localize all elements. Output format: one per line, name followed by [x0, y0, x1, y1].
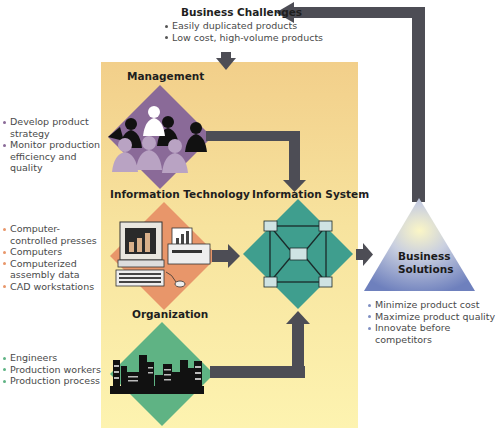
- it-diamond: [110, 202, 218, 310]
- it-item: Computers: [2, 246, 106, 258]
- organization-list: Engineers Production workers Production …: [2, 352, 106, 387]
- it-item: CAD workstations: [2, 281, 106, 293]
- management-diamond: [108, 85, 212, 189]
- organization-item: Production workers: [2, 364, 106, 376]
- solution-item: Innovate before competitors: [367, 322, 496, 345]
- management-to-is-arrow: [206, 131, 306, 192]
- challenge-item: Low cost, high-volume products: [164, 32, 323, 44]
- business-solutions-list: Minimize product cost Maximize product q…: [367, 299, 496, 345]
- information-system-title: Information System: [252, 188, 369, 200]
- it-item: Computer-controlled presses: [2, 223, 106, 246]
- management-list: Develop product strategy Monitor product…: [2, 116, 102, 174]
- it-to-is-arrow: [212, 244, 240, 268]
- business-challenges-title: Business Challenges: [181, 6, 302, 18]
- it-item: Computerized assembly data: [2, 258, 106, 281]
- organization-diamond: [110, 322, 214, 426]
- challenge-item: Easily duplicated products: [164, 20, 323, 32]
- business-solutions-title-line2: Solutions: [398, 263, 442, 276]
- organization-title: Organization: [132, 308, 208, 320]
- information-technology-list: Computer-controlled presses Computers Co…: [2, 223, 106, 292]
- management-title: Management: [127, 70, 204, 82]
- organization-item: Production process: [2, 375, 106, 387]
- challenges-down-arrow: [216, 52, 236, 70]
- business-solutions-triangle: [364, 198, 475, 291]
- information-system-diamond: [243, 199, 353, 309]
- solution-item: Minimize product cost: [367, 299, 496, 311]
- organization-item: Engineers: [2, 352, 106, 364]
- management-item: Develop product strategy: [2, 116, 102, 139]
- management-item: Monitor production efficiency and qualit…: [2, 139, 102, 174]
- information-technology-title: Information Technology: [110, 188, 250, 200]
- business-solutions-title-line1: Business: [398, 250, 442, 263]
- solution-item: Maximize product quality: [367, 311, 496, 323]
- business-challenges-list: Easily duplicated products Low cost, hig…: [164, 20, 323, 43]
- is-to-solutions-arrow: [356, 243, 373, 266]
- business-solutions-title: Business Solutions: [398, 250, 442, 276]
- organization-to-is-arrow: [210, 311, 310, 378]
